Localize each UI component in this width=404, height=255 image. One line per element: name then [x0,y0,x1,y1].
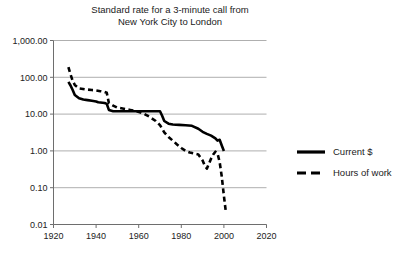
x-tick-label: 1980 [171,231,191,241]
legend-label-hours-of-work: Hours of work [333,167,392,178]
axis-frame [50,41,267,229]
data-series-layer [68,67,226,213]
y-tick-label: 0.01 [30,220,48,230]
legend-swatch-dashed [296,167,326,179]
x-tick-label: 2020 [256,231,276,241]
legend-item-hours-of-work[interactable]: Hours of work [296,162,402,183]
chart-legend: Current $ Hours of work [296,141,402,183]
legend-item-current-dollars[interactable]: Current $ [296,141,402,162]
y-tick-label: 1.00 [30,146,48,156]
chart-plot-area: 1,000.00100.0010.001.000.100.01 19201940… [0,0,404,255]
x-tick-label: 1940 [86,231,106,241]
y-tick-label: 10.00 [25,109,48,119]
series-line-hours-of-work [68,67,226,213]
x-tick-label: 1920 [43,231,63,241]
x-tick-label: 2000 [214,231,234,241]
axis-lines [54,41,267,225]
y-tick-label: 1,000.00 [12,36,47,46]
gridlines [54,41,267,225]
chart-figure: Standard rate for a 3-minute call from N… [0,0,404,255]
legend-label-current-dollars: Current $ [333,146,373,157]
y-tick-label: 100.00 [20,73,48,83]
y-tick-label: 0.10 [30,183,48,193]
x-axis-tick-labels: 192019401960198020002020 [43,231,276,241]
x-tick-label: 1960 [129,231,149,241]
legend-swatch-solid [296,146,326,158]
y-axis-tick-labels: 1,000.00100.0010.001.000.100.01 [12,36,47,230]
